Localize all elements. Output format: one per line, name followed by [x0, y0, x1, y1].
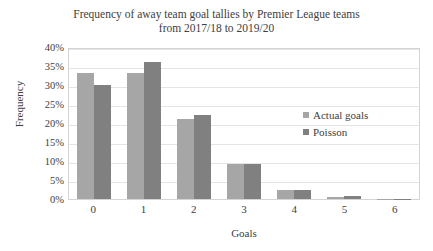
bar: [294, 190, 311, 199]
bar-group: [69, 49, 119, 199]
bar-group: [219, 49, 269, 199]
x-axis-tick-label: 3: [219, 203, 269, 215]
x-axis-tick-label: 6: [370, 203, 420, 215]
bar: [394, 199, 411, 200]
chart-container: Frequency of away team goal tallies by P…: [0, 0, 433, 251]
bar: [177, 119, 194, 199]
legend-item: Actual goals: [303, 107, 368, 122]
bar: [327, 197, 344, 199]
y-axis-tick-label: 15%: [2, 138, 64, 148]
x-axis-tick-label: 2: [169, 203, 219, 215]
bar: [344, 196, 361, 199]
y-axis-tick-label: 30%: [2, 81, 64, 91]
legend-label: Actual goals: [313, 109, 368, 121]
bar: [77, 73, 94, 199]
legend-item: Poisson: [303, 124, 368, 139]
bar-group: [169, 49, 219, 199]
x-axis-tick-label: 1: [118, 203, 168, 215]
bar: [277, 190, 294, 199]
y-axis-tick-label: 10%: [2, 157, 64, 167]
bar: [94, 85, 111, 199]
y-axis-tick-label: 40%: [2, 43, 64, 53]
x-axis-tick-label: 0: [68, 203, 118, 215]
bar: [377, 199, 394, 200]
chart-title: Frequency of away team goal tallies by P…: [0, 7, 433, 35]
y-axis-tick-label: 20%: [2, 119, 64, 129]
bar-group: [369, 49, 419, 199]
x-axis-title: Goals: [68, 227, 420, 239]
x-axis-tick-labels: 0123456: [68, 203, 420, 215]
x-axis-tick-label: 4: [269, 203, 319, 215]
y-axis-tick-label: 25%: [2, 100, 64, 110]
y-axis-tick-labels: 0%5%10%15%20%25%30%35%40%: [0, 48, 64, 200]
bar-group: [119, 49, 169, 199]
y-axis-tick-label: 0%: [2, 195, 64, 205]
bar: [194, 115, 211, 199]
x-axis-tick-label: 5: [319, 203, 369, 215]
chart-legend: Actual goalsPoisson: [303, 107, 368, 141]
bar: [244, 164, 261, 199]
legend-swatch-icon: [303, 129, 309, 135]
y-axis-tick-label: 35%: [2, 62, 64, 72]
legend-swatch-icon: [303, 112, 309, 118]
bar: [227, 164, 244, 199]
bar: [127, 73, 144, 199]
bar: [144, 62, 161, 199]
y-axis-tick-label: 5%: [2, 176, 64, 186]
legend-label: Poisson: [313, 126, 347, 138]
